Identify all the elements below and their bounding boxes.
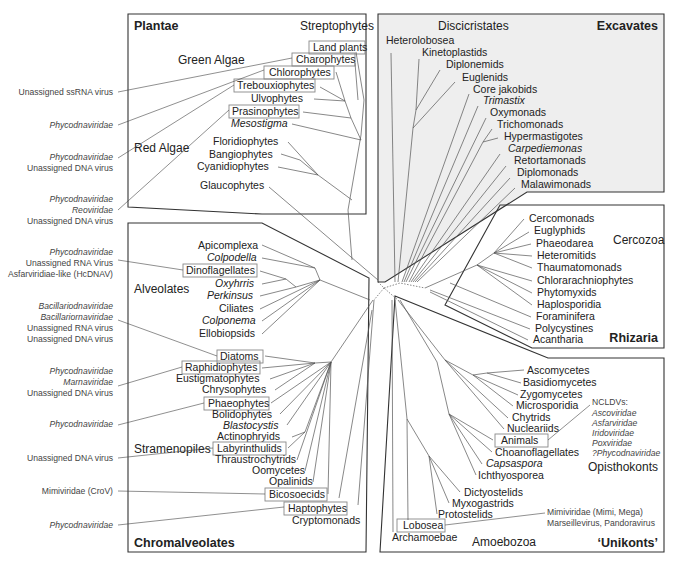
taxon: Phaeodarea bbox=[536, 237, 593, 249]
taxon: Carpediemonas bbox=[508, 142, 583, 154]
subgroup-discicristates: Discicristates bbox=[438, 19, 509, 33]
taxon: Foraminifera bbox=[536, 310, 595, 322]
taxon: Prasinophytes bbox=[232, 105, 299, 117]
taxon: Microsporidia bbox=[516, 399, 579, 411]
taxon: Dinoflagellates bbox=[186, 264, 255, 276]
subgroup-green-algae: Green Algae bbox=[178, 53, 245, 67]
taxon: Phytomyxids bbox=[537, 286, 597, 298]
taxon: Oxymonads bbox=[490, 106, 546, 118]
taxon: Floridiophytes bbox=[213, 135, 278, 147]
virus-label: Bacillariornaviridae bbox=[40, 312, 113, 322]
taxon: Apicomplexa bbox=[198, 239, 258, 251]
virus-label: Phycodnaviridae bbox=[49, 366, 113, 376]
taxon: Diplonemids bbox=[446, 58, 504, 70]
taxon: Nucleariids bbox=[507, 422, 559, 434]
taxon: Trimastix bbox=[483, 94, 526, 106]
virus-label: Unassigned DNA virus bbox=[27, 334, 113, 344]
virus-label: Unassigned ssRNA virus bbox=[18, 87, 113, 97]
taxon: Ascomycetes bbox=[527, 364, 589, 376]
taxon: Haptophytes bbox=[288, 502, 347, 514]
subgroup-cercozoa: Cercozoa bbox=[613, 233, 665, 247]
taxon: Acantharia bbox=[533, 333, 583, 345]
taxon: Chlorarachniophytes bbox=[537, 274, 633, 286]
taxon: Heteromitids bbox=[537, 249, 596, 261]
taxon: Perkinsus bbox=[207, 289, 254, 301]
virus-labels-left: Unassigned ssRNA virus Phycodnaviridae P… bbox=[8, 87, 113, 530]
virus-label: Reoviridae bbox=[72, 205, 113, 215]
taxon: Cercomonads bbox=[529, 212, 594, 224]
taxon: Haplosporidia bbox=[537, 298, 601, 310]
taxon: Chrysophytes bbox=[202, 383, 266, 395]
supergroup-unikonts: ‘Unikonts’ bbox=[598, 536, 658, 550]
supergroup-rhizaria: Rhizaria bbox=[609, 331, 659, 345]
taxon: Land plants bbox=[313, 41, 367, 53]
taxon: Opalinids bbox=[269, 475, 313, 487]
virus-label: Marnaviridae bbox=[63, 377, 113, 387]
eukaryote-tree-diagram: Plantae Excavates Rhizaria Chromalveolat… bbox=[0, 0, 678, 561]
virus-label: Iridoviridae bbox=[592, 428, 634, 438]
virus-label: ?Phycodnaviridae bbox=[592, 448, 661, 458]
virus-label: Phycodnaviridae bbox=[49, 194, 113, 204]
taxon: Malawimonads bbox=[521, 178, 591, 190]
virus-label: Unassigned DNA virus bbox=[27, 163, 113, 173]
taxon: Oxyhrris bbox=[215, 277, 255, 289]
taxon: Mesostigma bbox=[231, 117, 288, 129]
virus-label: Unassigned DNA virus bbox=[27, 388, 113, 398]
taxon: Ichthyosporea bbox=[478, 469, 544, 481]
virus-label: Asfarviridiae-like (HcDNAV) bbox=[8, 269, 113, 279]
taxon: Trebouxiophytes bbox=[237, 79, 314, 91]
taxon: Thaumatomonads bbox=[537, 261, 622, 273]
supergroup-plantae: Plantae bbox=[134, 19, 179, 33]
taxon: Cryptomonads bbox=[292, 514, 360, 526]
taxon: Diplomonads bbox=[517, 166, 578, 178]
virus-label: Bacillariodnaviridae bbox=[38, 301, 113, 311]
virus-label: Unassigned RNA Virus bbox=[26, 258, 113, 268]
taxon: Hypermastigotes bbox=[504, 130, 583, 142]
chromalveolates-taxa: Apicomplexa Colpodella Dinoflagellates O… bbox=[176, 239, 360, 526]
taxon: Heterolobosea bbox=[386, 34, 454, 46]
subgroup-amoebozoa: Amoebozoa bbox=[472, 535, 536, 549]
taxon: Bangiophytes bbox=[209, 148, 273, 160]
virus-label: Unassigned DNA virus bbox=[27, 216, 113, 226]
subgroup-stramenopiles: Stramenopiles bbox=[134, 442, 211, 456]
supergroup-excavates: Excavates bbox=[597, 19, 658, 33]
subgroup-streptophytes: Streptophytes bbox=[300, 19, 374, 33]
virus-label: Mimiviridae (Mimi, Mega) bbox=[547, 507, 643, 517]
taxon: Trichomonads bbox=[497, 118, 563, 130]
supergroup-chromalveolates: Chromalveolates bbox=[134, 536, 235, 550]
taxon: Euglyphids bbox=[534, 224, 585, 236]
taxon: Cyanidiophytes bbox=[197, 160, 269, 172]
virus-label: Phycodnaviridae bbox=[49, 520, 113, 530]
taxon: Kinetoplastids bbox=[422, 46, 487, 58]
subgroup-alveolates-label: Alveolates bbox=[134, 282, 189, 296]
virus-label: Poxviridae bbox=[592, 438, 632, 448]
taxon: Ulvophytes bbox=[251, 92, 303, 104]
virus-label: Ascoviridae bbox=[591, 408, 637, 418]
virus-label: Mimiviridae (CroV) bbox=[42, 486, 113, 496]
taxon: Actinophryids bbox=[217, 430, 280, 442]
taxon: Bicosoecids bbox=[269, 488, 325, 500]
taxon: Retortamonads bbox=[514, 154, 586, 166]
taxon: Glaucophytes bbox=[200, 179, 264, 191]
taxon: Chlorophytes bbox=[269, 66, 331, 78]
taxon: Ellobiopsids bbox=[199, 327, 255, 339]
taxon: Basidiomycetes bbox=[523, 376, 597, 388]
ncldv-header: NCLDVs: bbox=[592, 397, 628, 407]
taxon: Colpodella bbox=[207, 251, 257, 263]
taxon: Protostelids bbox=[438, 508, 493, 520]
taxon: Archamoebae bbox=[392, 531, 458, 543]
taxon: Capsaspora bbox=[486, 457, 543, 469]
taxon: Animals bbox=[501, 434, 538, 446]
virus-label: Unassigned DNA virus bbox=[27, 453, 113, 463]
subgroup-opisthokonts: Opisthokonts bbox=[588, 460, 658, 474]
taxon: Lobosea bbox=[403, 519, 443, 531]
rhizaria-taxa: Cercomonads Euglyphids Phaeodarea Hetero… bbox=[529, 212, 633, 345]
virus-label: Phycodnaviridae bbox=[49, 247, 113, 257]
virus-label: Marseillevirus, Pandoravirus bbox=[547, 518, 655, 528]
taxon: Colponema bbox=[202, 314, 256, 326]
taxon: Euglenids bbox=[462, 71, 508, 83]
taxon: Charophytes bbox=[296, 53, 356, 65]
virus-label: Phycodnaviridae bbox=[49, 152, 113, 162]
virus-label: Unassigned RNA virus bbox=[27, 323, 113, 333]
virus-label: Asfarviridae bbox=[591, 418, 638, 428]
